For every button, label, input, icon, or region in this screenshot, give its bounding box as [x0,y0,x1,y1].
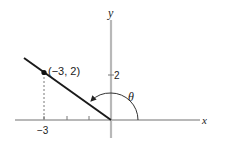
angle-label: θ [128,90,134,104]
y-tick-label: 2 [114,70,120,81]
point-marker [41,70,46,75]
y-axis-label: y [107,6,114,20]
x-axis-label: x [201,114,207,126]
x-tick-label: −3 [37,125,49,136]
point-label: (−3, 2) [48,65,80,77]
coordinate-diagram: (−3, 2) −3 2 θ y x [0,0,225,153]
